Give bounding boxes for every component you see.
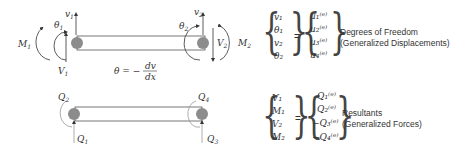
svg-text:−Q₄⁽ᵉ⁾: −Q₄⁽ᵉ⁾: [312, 132, 338, 142]
svg-text:=: =: [295, 113, 301, 124]
svg-text:dx: dx: [145, 72, 156, 82]
theta1-arc-icon: [54, 32, 66, 60]
svg-text:u₂⁽ᵉ⁾: u₂⁽ᵉ⁾: [310, 24, 327, 34]
svg-text:M₂: M₂: [271, 132, 285, 142]
resultants-caption-title: Resultants: [342, 108, 422, 119]
svg-text:u₃⁽ᵉ⁾: u₃⁽ᵉ⁾: [310, 37, 327, 47]
svg-text:Q₂⁽ᵉ⁾: Q₂⁽ᵉ⁾: [317, 104, 336, 114]
svg-text:=: =: [294, 31, 300, 42]
slope-equation: θ = − dv dx: [114, 61, 157, 82]
dof-caption: Degrees of Freedom (Generalized Displace…: [340, 27, 450, 49]
top-beam: [71, 36, 209, 50]
theta2-label: θ2: [179, 21, 188, 32]
node-2: [197, 37, 209, 49]
svg-text:−Q₃⁽ᵉ⁾: −Q₃⁽ᵉ⁾: [312, 118, 338, 128]
resultants-caption: Resultants (Generalized Forces): [342, 108, 422, 130]
svg-text:u₄⁽ᵉ⁾: u₄⁽ᵉ⁾: [310, 50, 327, 60]
v2-label: v2: [194, 7, 203, 18]
dof-caption-title: Degrees of Freedom: [340, 27, 450, 38]
svg-text:Q₁⁽ᵉ⁾: Q₁⁽ᵉ⁾: [317, 91, 336, 101]
svg-text:v₂: v₂: [274, 38, 283, 48]
svg-text:θ₂: θ₂: [274, 51, 283, 61]
Q3-label: Q3: [207, 134, 218, 145]
V2-label: V2: [217, 38, 228, 49]
node-2-bottom: [196, 108, 208, 120]
Q4-label: Q4: [198, 92, 209, 103]
M2-label: M2: [237, 38, 251, 49]
dof-vector-equation: { v₁ θ₁ v₂ θ₂ } = { u₁⁽ᵉ⁾ u₂⁽ᵉ⁾ u₃⁽ᵉ⁾ u₄…: [262, 3, 348, 61]
svg-text:dv: dv: [145, 61, 156, 71]
beam-element-diagram: v1 θ1 V1 M1 v2 θ2 V2 M2 θ = − dv dx Q2 Q…: [0, 0, 457, 154]
Q1-label: Q1: [77, 134, 88, 145]
v1-label: v1: [65, 9, 74, 20]
M1-label: M1: [17, 39, 31, 50]
svg-text:M₁: M₁: [271, 106, 285, 116]
node-1-bottom: [68, 108, 80, 120]
resultant-vector-equation: { V₁ M₁ V₂ M₂ } = { Q₁⁽ᵉ⁾ Q₂⁽ᵉ⁾ −Q₃⁽ᵉ⁾ −…: [262, 87, 354, 143]
theta1-label: θ1: [54, 20, 63, 31]
svg-text:V₂: V₂: [272, 119, 282, 129]
svg-text:u₁⁽ᵉ⁾: u₁⁽ᵉ⁾: [310, 11, 327, 21]
svg-text:θ = −: θ = −: [114, 66, 140, 76]
V1-label: V1: [58, 66, 68, 77]
svg-text:V₁: V₁: [272, 93, 282, 103]
dof-caption-subtitle: (Generalized Displacements): [340, 38, 450, 49]
M1-arc-icon: [36, 28, 50, 60]
Q2-label: Q2: [58, 92, 69, 103]
resultants-caption-subtitle: (Generalized Forces): [342, 119, 422, 130]
svg-text:θ₁: θ₁: [274, 25, 283, 35]
bottom-beam: [68, 107, 208, 121]
node-1: [71, 37, 83, 49]
svg-text:v₁: v₁: [274, 12, 283, 22]
